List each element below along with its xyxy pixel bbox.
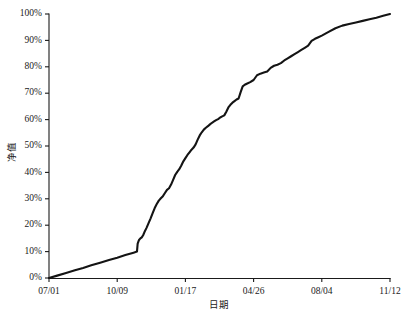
y-tick-label: 50% xyxy=(25,140,43,150)
y-tick-label: 30% xyxy=(25,193,43,203)
y-tick-label: 90% xyxy=(25,35,43,45)
y-axis-title: 净值 xyxy=(6,142,17,162)
y-tick-label: 20% xyxy=(25,219,43,229)
y-tick-label: 100% xyxy=(20,8,42,18)
x-tick-label: 04/26 xyxy=(243,286,265,296)
y-tick-label: 70% xyxy=(25,87,43,97)
x-tick-label: 08/04 xyxy=(311,286,333,296)
y-tick-label: 40% xyxy=(25,167,43,177)
y-tick-label: 0% xyxy=(29,272,42,282)
net-value-line-series xyxy=(49,14,390,278)
x-tick-label: 11/12 xyxy=(379,286,401,296)
x-tick-label: 07/01 xyxy=(38,286,60,296)
x-tick-label: 01/17 xyxy=(175,286,197,296)
y-tick-label: 60% xyxy=(25,114,43,124)
x-axis-ticks: 07/0110/0901/1704/2608/0411/12 xyxy=(38,278,401,296)
y-axis-ticks: 0%10%20%30%40%50%60%70%80%90%100% xyxy=(20,8,49,282)
cumulative-net-value-chart: 净值 日期 0%10%20%30%40%50%60%70%80%90%100% … xyxy=(0,0,405,317)
x-tick-label: 10/09 xyxy=(106,286,128,296)
y-tick-label: 80% xyxy=(25,61,43,71)
x-axis-title: 日期 xyxy=(209,299,229,310)
y-tick-label: 10% xyxy=(25,246,43,256)
chart-canvas: 净值 日期 0%10%20%30%40%50%60%70%80%90%100% … xyxy=(0,0,405,317)
